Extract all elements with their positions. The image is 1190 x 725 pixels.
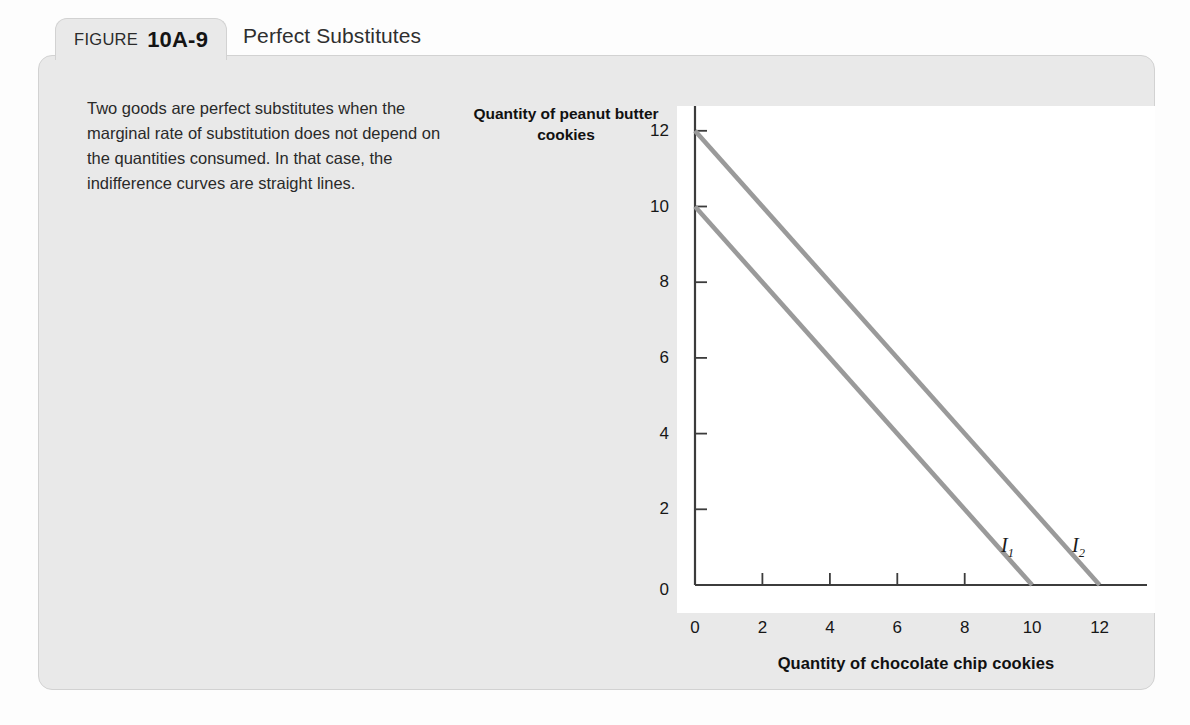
- x-tick-label: 4: [810, 618, 850, 638]
- figure-tab-word: FIGURE: [74, 30, 138, 49]
- figure-caption: Two goods are perfect substitutes when t…: [87, 96, 452, 196]
- x-tick-label: 6: [877, 618, 917, 638]
- plot-area: I1 I2: [677, 106, 1155, 613]
- y-tick-label: 6: [629, 348, 669, 368]
- x-tick-label: 8: [945, 618, 985, 638]
- figure-tab: FIGURE 10A-9: [55, 18, 227, 60]
- x-axis-tick-labels: 0 2 4 6 8 10 12: [677, 618, 1155, 648]
- curve-label-i1-text: I: [1001, 534, 1008, 556]
- indifference-curve-i2: [695, 131, 1100, 585]
- x-tick-label: 0: [675, 618, 715, 638]
- indifference-curve-i1: [695, 207, 1032, 586]
- y-axis-tick-labels: 12 10 8 6 4 2 0: [617, 106, 669, 613]
- curve-label-i1-sub: 1: [1008, 546, 1014, 560]
- y-tick-label: 8: [629, 272, 669, 292]
- y-tick-label: 12: [629, 121, 669, 141]
- curve-label-i1: I1: [1001, 534, 1014, 561]
- curve-label-i2-sub: 2: [1079, 546, 1085, 560]
- figure-card: Two goods are perfect substitutes when t…: [38, 55, 1155, 690]
- x-axis-label: Quantity of chocolate chip cookies: [677, 654, 1155, 673]
- curve-label-i2: I2: [1072, 534, 1085, 561]
- y-tick-label: 2: [629, 499, 669, 519]
- chart-region: Quantity of peanut butter cookies 12 10 …: [459, 56, 1159, 691]
- x-tick-label: 2: [742, 618, 782, 638]
- figure-tab-number: 10A-9: [147, 27, 208, 53]
- figure-title: Perfect Substitutes: [243, 24, 421, 48]
- x-tick-label: 12: [1080, 618, 1120, 638]
- x-tick-label: 10: [1012, 618, 1052, 638]
- curve-label-i2-text: I: [1072, 534, 1079, 556]
- y-tick-label: 10: [629, 197, 669, 217]
- y-tick-label: 0: [629, 580, 669, 600]
- y-tick-label: 4: [629, 424, 669, 444]
